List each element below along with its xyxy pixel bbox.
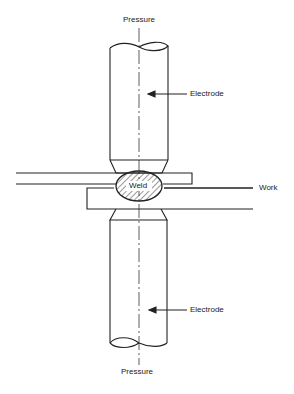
electrode-bottom-label: Electrode	[190, 306, 224, 314]
weld-label: Weld	[129, 182, 147, 190]
bottom-electrode	[110, 209, 167, 348]
work-label: Work	[259, 184, 278, 192]
pressure-bottom-label: Pressure	[121, 368, 153, 376]
spot-weld-diagram: Pressure Electrode Weld Work Electrode P…	[0, 0, 294, 394]
arrows	[148, 91, 253, 313]
diagram-drawing	[0, 0, 294, 394]
electrode-top-label: Electrode	[190, 90, 224, 98]
pressure-top-label: Pressure	[123, 16, 155, 24]
